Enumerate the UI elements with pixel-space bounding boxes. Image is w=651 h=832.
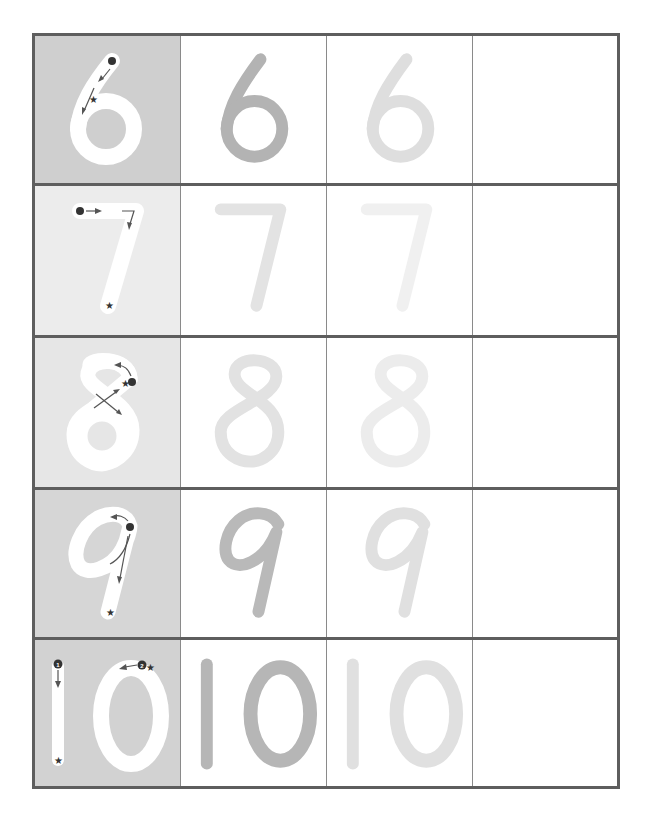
trace-cell-10-dark[interactable] [180,640,326,789]
digit-9-trace-glyph [181,490,326,638]
digit-7-trace-glyph [327,186,472,335]
digit-9-model-glyph: ★ [32,490,180,638]
digit-8-trace-glyph [327,338,472,487]
start-dot-icon [126,523,134,531]
start-dot-icon [76,207,84,215]
digit-7-model-glyph: ★ [32,186,180,335]
trace-cell-9-light[interactable] [326,490,472,638]
blank-practice-cell-6[interactable] [472,33,620,184]
blank-practice-cell-8[interactable] [472,338,620,487]
trace-cell-7-dark[interactable] [180,186,326,335]
row-digit-7: 7 ★ [32,186,620,335]
digit-6-trace-glyph [327,33,472,184]
digit-8-model-glyph: ★ [32,338,180,487]
trace-cell-6-light[interactable] [326,33,472,184]
end-star-icon: ★ [105,300,114,311]
digit-7-trace-glyph [181,186,326,335]
end-star-icon: ★ [54,755,63,766]
digit-6-model-glyph: ★ [32,33,180,184]
trace-cell-7-light[interactable] [326,186,472,335]
model-cell-6: ★ [32,33,180,184]
model-cell-7: ★ [32,186,180,335]
digit-10-trace-glyph [181,640,326,789]
model-cell-9: ★ [32,490,180,638]
row-digit-9: 9 ★ [32,490,620,638]
tracing-worksheet: 6 ★ [32,33,620,789]
trace-cell-10-light[interactable] [326,640,472,789]
blank-practice-cell-10[interactable] [472,640,620,789]
end-star-icon: ★ [121,378,130,389]
row-digit-10: 10 1 ★ 2 ★ [32,640,620,789]
end-star-icon: ★ [146,662,155,673]
digit-10-model-glyph: 1 ★ 2 ★ [32,640,180,789]
model-cell-8: ★ [32,338,180,487]
digit-9-trace-glyph [327,490,472,638]
start-dot-icon [108,57,116,65]
end-star-icon: ★ [106,607,115,618]
digit-10-trace-glyph [327,640,472,789]
digit-6-trace-glyph [181,33,326,184]
model-cell-10: 1 ★ 2 ★ [32,640,180,789]
trace-cell-6-dark[interactable] [180,33,326,184]
trace-cell-9-dark[interactable] [180,490,326,638]
digit-8-trace-glyph [181,338,326,487]
end-star-icon: ★ [89,94,98,105]
row-digit-8: 8 ★ [32,338,620,487]
trace-cell-8-light[interactable] [326,338,472,487]
row-digit-6: 6 ★ [32,33,620,184]
blank-practice-cell-9[interactable] [472,490,620,638]
trace-cell-8-dark[interactable] [180,338,326,487]
blank-practice-cell-7[interactable] [472,186,620,335]
